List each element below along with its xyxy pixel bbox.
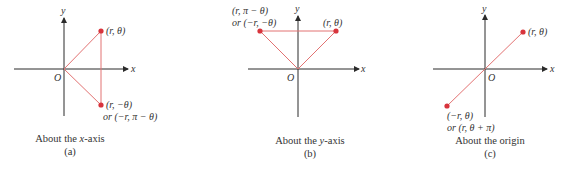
origin-label: O <box>287 72 294 84</box>
origin-label: O <box>488 72 495 84</box>
point-r-theta <box>98 28 103 33</box>
caption-title: About the origin <box>440 134 540 147</box>
y-axis-label: y <box>482 3 486 15</box>
point-label: (r, θ) <box>323 17 342 29</box>
origin-label: O <box>54 72 61 84</box>
point-label: (r, π − θ) <box>232 5 268 17</box>
y-axis-label: y <box>295 3 299 15</box>
point-label-alt: or (r, θ + π) <box>447 122 495 134</box>
caption-letter: (c) <box>440 147 540 160</box>
segment <box>64 69 101 105</box>
segment <box>298 31 336 69</box>
point-reflected-origin <box>444 103 449 108</box>
segment <box>64 31 101 69</box>
point-label: (−r, θ) <box>447 110 473 122</box>
x-axis-label: x <box>550 63 554 75</box>
point-r-theta <box>520 29 525 34</box>
y-axis-label: y <box>61 5 65 17</box>
caption-title: About the y-axis <box>260 134 360 147</box>
point-label-alt: or (−r, −θ) <box>232 17 276 29</box>
x-axis-label: x <box>131 63 135 75</box>
x-axis-label: x <box>361 63 365 75</box>
point-label: (r, −θ) <box>106 99 132 111</box>
caption-letter: (a) <box>20 145 120 158</box>
caption-letter: (b) <box>260 147 360 160</box>
point-reflected-x <box>98 102 103 107</box>
panel-b-graph <box>248 16 359 117</box>
point-reflected-y <box>257 28 262 33</box>
segment <box>260 31 298 69</box>
point-label-alt: or (−r, π − θ) <box>103 111 157 123</box>
caption-title: About the x-axis <box>20 132 120 145</box>
point-r-theta <box>333 28 338 33</box>
point-label: (r, θ) <box>106 25 125 37</box>
point-label: (r, θ) <box>528 26 547 38</box>
